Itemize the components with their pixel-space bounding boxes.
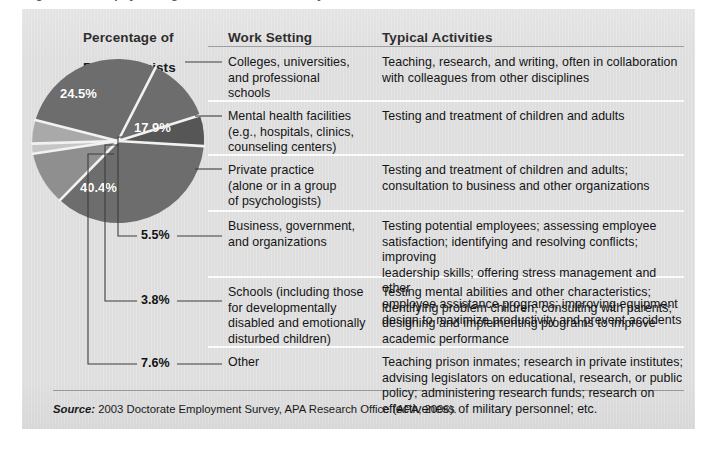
clipped-title-text: Figure: Where psychologists work and wha… — [24, 0, 344, 1]
work-setting-row-6: Other — [228, 355, 376, 371]
source-label: Source: — [53, 403, 95, 415]
source-note: Source: 2003 Doctorate Employment Survey… — [53, 403, 457, 415]
activities-row-2: Testing and treatment of children and ad… — [382, 109, 687, 125]
work-setting-row-2: Mental health facilities (e.g., hospital… — [228, 109, 376, 156]
activities-row-3: Testing and treatment of children and ad… — [382, 163, 687, 194]
work-setting-row-4: Business, government, and organizations — [228, 219, 376, 250]
work-setting-row-3: Private practice (alone or in a group of… — [228, 163, 376, 210]
work-setting-row-5: Schools (including those for development… — [228, 285, 376, 347]
leader-line-other — [88, 154, 137, 364]
figure-panel: Percentage of Psychologists Work Setting… — [22, 9, 695, 429]
clipped-title-strip: Figure: Where psychologists work and wha… — [0, 0, 715, 9]
leader-line-schools — [105, 145, 137, 301]
figure-page: Figure: Where psychologists work and wha… — [0, 0, 715, 455]
activities-row-1: Teaching, research, and writing, often i… — [382, 55, 687, 86]
leader-line-business — [118, 137, 137, 236]
work-setting-row-1: Colleges, universities, and professional… — [228, 55, 376, 102]
source-text: 2003 Doctorate Employment Survey, APA Re… — [95, 403, 456, 415]
activities-row-5: Testing mental abilities and other chara… — [382, 285, 687, 347]
